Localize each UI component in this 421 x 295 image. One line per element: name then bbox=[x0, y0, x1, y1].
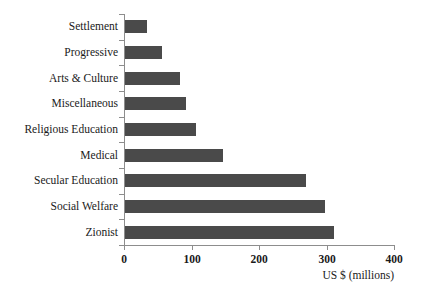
x-axis-tick-label: 300 bbox=[302, 253, 352, 265]
category-label: Progressive bbox=[0, 46, 118, 59]
bar bbox=[125, 149, 223, 162]
bar bbox=[125, 174, 306, 187]
category-label: Medical bbox=[0, 149, 118, 162]
x-axis-tick bbox=[394, 245, 395, 250]
category-label: Settlement bbox=[0, 20, 118, 33]
y-axis-tick bbox=[119, 168, 124, 169]
y-axis-tick bbox=[119, 194, 124, 195]
x-axis-title: US $ (millions) bbox=[204, 269, 394, 281]
y-axis-tick bbox=[119, 142, 124, 143]
bar bbox=[125, 123, 196, 136]
x-axis-tick bbox=[192, 245, 193, 250]
bar bbox=[125, 226, 334, 239]
y-axis-tick bbox=[119, 14, 124, 15]
y-axis-tick bbox=[119, 40, 124, 41]
bar bbox=[125, 97, 186, 110]
x-axis-tick-label: 400 bbox=[369, 253, 419, 265]
category-label: Arts & Culture bbox=[0, 72, 118, 85]
bar bbox=[125, 200, 325, 213]
x-axis-tick bbox=[327, 245, 328, 250]
y-axis-tick bbox=[119, 117, 124, 118]
x-axis-tick-label: 0 bbox=[99, 253, 149, 265]
y-axis-tick bbox=[119, 65, 124, 66]
category-label: Miscellaneous bbox=[0, 97, 118, 110]
bar bbox=[125, 46, 162, 59]
y-axis-tick bbox=[119, 91, 124, 92]
x-axis-tick-label: 200 bbox=[234, 253, 284, 265]
y-axis-tick bbox=[119, 219, 124, 220]
bar bbox=[125, 72, 180, 85]
x-axis-tick bbox=[259, 245, 260, 250]
category-label: Zionist bbox=[0, 226, 118, 239]
bar-chart: SettlementProgressiveArts & CultureMisce… bbox=[0, 0, 421, 295]
bar bbox=[125, 20, 147, 33]
category-label: Religious Education bbox=[0, 123, 118, 136]
category-label: Secular Education bbox=[0, 174, 118, 187]
x-axis-tick-label: 100 bbox=[167, 253, 217, 265]
category-label: Social Welfare bbox=[0, 200, 118, 213]
x-axis-tick bbox=[124, 245, 125, 250]
